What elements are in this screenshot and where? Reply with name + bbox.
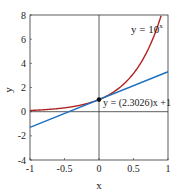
x-tick-label: -0.5 [57, 163, 73, 174]
y-tick-label: 6 [21, 34, 26, 45]
y-tick-label: 0 [21, 106, 26, 117]
tangent-point [97, 97, 102, 102]
y-axis-label: y [2, 87, 14, 93]
x-tick-label: -1 [26, 163, 34, 174]
x-tick-label: 0.5 [127, 163, 140, 174]
x-axis-label: x [96, 179, 102, 191]
x-tick-label: 1 [166, 163, 171, 174]
y-tick-label: 8 [21, 10, 26, 21]
plot-area [30, 15, 168, 160]
y-tick-label: 2 [21, 82, 26, 93]
chart: -1-0.500.51-4-202468 y = 10x y = (2.3026… [0, 0, 182, 194]
y-tick-label: -4 [18, 155, 26, 166]
x-tick-label: 0 [97, 163, 102, 174]
annotation-tangent: y = (2.3026)x +1 [103, 97, 171, 109]
y-tick-label: -2 [18, 130, 26, 141]
annotation-exp: y = 10x [131, 22, 163, 35]
y-tick-label: 4 [21, 58, 26, 69]
